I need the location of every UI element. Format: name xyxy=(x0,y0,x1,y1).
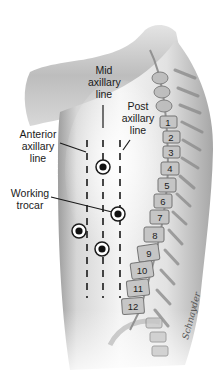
working-trocar-port-icon xyxy=(111,207,125,221)
mid-axillary-line-label: Mid axillary line xyxy=(88,64,120,100)
trocar-port-icon xyxy=(72,224,86,238)
vertebra-label-t8: 8 xyxy=(152,230,157,241)
vertebra-label-t2: 2 xyxy=(168,132,173,143)
vertebra-label-t9: 9 xyxy=(146,248,151,259)
vertebra-label-t5: 5 xyxy=(164,180,169,191)
vertebra-label-t4: 4 xyxy=(167,163,172,174)
vertebra-label-t6: 6 xyxy=(160,196,165,207)
post-axillary-line-label: Post axillary line xyxy=(118,100,158,136)
vertebra-label-t7: 7 xyxy=(157,212,162,223)
vertebra-label-t12: 12 xyxy=(128,301,139,312)
vertebra-label-t10: 10 xyxy=(137,265,148,276)
vertebra-label-t3: 3 xyxy=(168,147,173,158)
vertebra-label-t1: 1 xyxy=(165,117,170,128)
anterior-axillary-line-label: Anterior axillary line xyxy=(14,128,62,164)
trocar-port-icon xyxy=(95,242,109,256)
thoracoscopy-port-diagram: Schnayder Mid axillary line Post axillar… xyxy=(0,0,220,385)
trocar-port-icon xyxy=(96,160,110,174)
working-trocar-label: Working trocar xyxy=(6,187,54,211)
vertebra-label-t11: 11 xyxy=(133,283,143,294)
